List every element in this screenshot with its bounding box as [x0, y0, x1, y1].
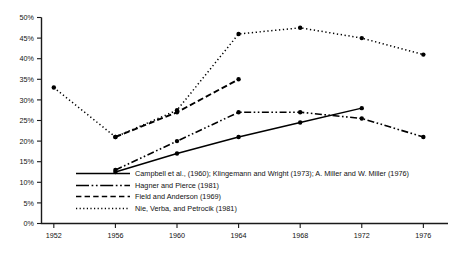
data-point-marker — [236, 135, 240, 139]
data-point-marker — [298, 26, 302, 30]
x-axis-tick-label: 1960 — [169, 231, 185, 240]
y-axis-tick-label: 5% — [24, 199, 35, 208]
data-point-marker — [421, 52, 425, 56]
series-line-1 — [115, 112, 423, 170]
x-axis-tick-label: 1956 — [107, 231, 123, 240]
series-line-0 — [115, 108, 361, 172]
y-axis-tick-label: 40% — [20, 54, 35, 63]
y-axis-tick-label: 35% — [20, 75, 35, 84]
x-axis-tick-label: 1952 — [46, 231, 62, 240]
x-axis-tick-label: 1972 — [354, 231, 370, 240]
y-axis-tick-label: 45% — [20, 34, 35, 43]
legend-swatch-dash-dot — [76, 180, 130, 191]
y-axis-tick-label: 50% — [20, 13, 35, 22]
data-point-marker — [360, 116, 364, 120]
chart-figure: 0%5%10%15%20%25%30%35%40%45%50%195219561… — [0, 0, 471, 254]
x-axis-tick-label: 1964 — [231, 231, 247, 240]
data-point-marker — [52, 85, 56, 89]
y-axis-tick-label: 30% — [20, 96, 35, 105]
data-point-marker — [236, 110, 240, 114]
legend-label: Nie, Verba, and Petrocik (1981) — [135, 203, 237, 214]
legend-swatch-solid — [76, 168, 130, 179]
y-axis-tick-label: 20% — [20, 137, 35, 146]
legend-swatch-dotted — [76, 203, 130, 214]
legend-item-hagner-pierce: Hagner and Pierce (1981) — [76, 180, 468, 192]
data-point-marker — [298, 120, 302, 124]
x-axis-tick-label: 1968 — [292, 231, 308, 240]
legend-label: Field and Anderson (1969) — [135, 191, 221, 202]
data-point-marker — [298, 110, 302, 114]
data-point-marker — [421, 135, 425, 139]
y-axis-tick-label: 10% — [20, 178, 35, 187]
legend-item-campbell: Campbell et al., (1960); Klingemann and … — [76, 168, 468, 180]
data-point-marker — [236, 77, 240, 81]
legend-label: Campbell et al., (1960); Klingemann and … — [135, 168, 409, 179]
data-point-marker — [175, 151, 179, 155]
y-axis-tick-label: 0% — [24, 219, 35, 228]
data-point-marker — [175, 139, 179, 143]
legend-swatch-dashed — [76, 191, 130, 202]
chart-legend: Campbell et al., (1960); Klingemann and … — [76, 168, 468, 214]
legend-item-field-anderson: Field and Anderson (1969) — [76, 191, 468, 203]
line-chart-plot: 0%5%10%15%20%25%30%35%40%45%50%195219561… — [0, 0, 471, 254]
data-point-marker — [360, 106, 364, 110]
data-point-marker — [236, 32, 240, 36]
data-point-marker — [113, 135, 117, 139]
data-point-marker — [175, 108, 179, 112]
data-point-marker — [360, 36, 364, 40]
x-axis-tick-label: 1976 — [415, 231, 431, 240]
legend-item-nie-verba-petrocik: Nie, Verba, and Petrocik (1981) — [76, 203, 468, 215]
y-axis-tick-label: 15% — [20, 157, 35, 166]
legend-label: Hagner and Pierce (1981) — [135, 180, 219, 191]
y-axis-tick-label: 25% — [20, 116, 35, 125]
